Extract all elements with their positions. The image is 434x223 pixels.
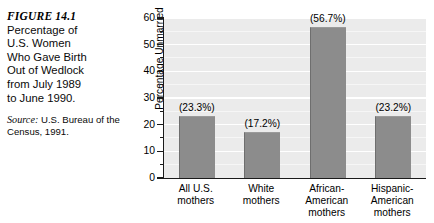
gridline: [164, 71, 426, 72]
category-label-line: mothers: [359, 207, 425, 219]
y-axis-tick-label: 30: [133, 93, 155, 103]
y-axis-major-tick: [157, 71, 164, 72]
x-axis-category-label: Hispanic-Americanmothers: [359, 183, 425, 218]
bar-value-label: (23.3%): [162, 102, 232, 113]
y-axis-minor-tick: [160, 164, 164, 165]
gridline: [164, 57, 426, 58]
x-axis-tick-labels: All U.S.mothersWhitemothersAfrican-Ameri…: [163, 183, 425, 223]
category-label-line: All U.S.: [163, 183, 229, 195]
category-label-line: Hispanic-: [359, 183, 425, 195]
category-label-line: mothers: [163, 195, 229, 207]
category-label-line: American: [359, 195, 425, 207]
caption-line: from July 1989: [7, 78, 131, 92]
x-axis-category-label: All U.S.mothers: [163, 183, 229, 207]
y-axis-major-tick: [157, 44, 164, 45]
y-axis-minor-tick: [160, 57, 164, 58]
source-label: Source:: [7, 114, 38, 125]
y-axis-tick-label: 50: [133, 40, 155, 50]
y-axis-tick-label: 40: [133, 66, 155, 76]
y-axis-tick-label: 20: [133, 120, 155, 130]
bar-value-label: (56.7%): [293, 13, 363, 24]
x-axis-category-label: Whitemothers: [228, 183, 294, 207]
figure-caption-block: FIGURE 14.1 Percentage ofU.S. WomenWho G…: [7, 10, 131, 137]
y-axis-major-tick: [157, 124, 164, 125]
y-axis-major-tick: [157, 151, 164, 152]
caption-line: Out of Wedlock: [7, 64, 131, 78]
caption-line: Who Gave Birth: [7, 51, 131, 65]
x-axis-category-label: African-Americanmothers: [294, 183, 360, 218]
caption-line: U.S. Women: [7, 37, 131, 51]
gridline: [164, 97, 426, 98]
y-axis-minor-tick: [160, 31, 164, 32]
caption-line: to June 1990.: [7, 92, 131, 106]
gridline: [164, 84, 426, 85]
category-label-line: American: [294, 195, 360, 207]
plot-area: (23.3%)(17.2%)(56.7%)(23.2%): [163, 18, 426, 179]
gridline: [164, 44, 426, 45]
category-label-line: mothers: [228, 195, 294, 207]
figure-number: FIGURE 14.1: [7, 10, 131, 24]
bar-value-label: (23.2%): [358, 102, 428, 113]
y-axis-major-tick: [157, 177, 164, 178]
figure-caption-text: Percentage ofU.S. WomenWho Gave BirthOut…: [7, 24, 131, 106]
y-axis-major-tick: [157, 97, 164, 98]
y-axis-tick-labels: 0102030405060: [131, 18, 155, 178]
y-axis-minor-tick: [160, 84, 164, 85]
y-axis-major-tick: [157, 17, 164, 18]
figure-container: FIGURE 14.1 Percentage ofU.S. WomenWho G…: [0, 0, 434, 223]
bar: [244, 132, 280, 178]
caption-line: Percentage of: [7, 24, 131, 38]
y-axis-tick-label: 60: [133, 13, 155, 23]
y-axis-tick-label: 10: [133, 146, 155, 156]
category-label-line: African-: [294, 183, 360, 195]
bar-chart: Percentage Unmarried 0102030405060 (23.3…: [131, 0, 434, 223]
category-label-line: White: [228, 183, 294, 195]
category-label-line: mothers: [294, 207, 360, 219]
bar: [310, 27, 346, 178]
figure-source-note: Source: U.S. Bureau of the Census, 1991.: [7, 114, 131, 137]
gridline: [164, 31, 426, 32]
y-axis-tick-label: 0: [133, 173, 155, 183]
bar: [375, 116, 411, 178]
bar: [179, 116, 215, 178]
y-axis-minor-tick: [160, 137, 164, 138]
bar-value-label: (17.2%): [227, 118, 297, 129]
